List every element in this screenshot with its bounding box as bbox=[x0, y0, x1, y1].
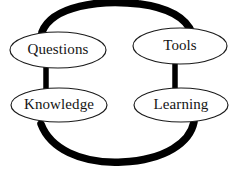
node-tools-label: Tools bbox=[163, 37, 197, 53]
node-learning-label: Learning bbox=[154, 96, 209, 112]
diagram-canvas: Questions Tools Knowledge Learning bbox=[0, 0, 243, 179]
node-knowledge[interactable]: Knowledge bbox=[11, 88, 107, 122]
cycle-diagram: Questions Tools Knowledge Learning bbox=[0, 0, 243, 179]
node-questions[interactable]: Questions bbox=[10, 32, 106, 68]
node-knowledge-label: Knowledge bbox=[24, 96, 94, 112]
link-learning-to-knowledge bbox=[41, 122, 194, 162]
node-tools[interactable]: Tools bbox=[133, 28, 227, 64]
node-learning[interactable]: Learning bbox=[134, 88, 228, 122]
node-questions-label: Questions bbox=[28, 41, 89, 57]
